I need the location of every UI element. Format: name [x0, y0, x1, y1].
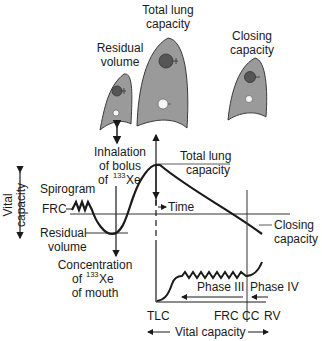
- svg-text:of: of: [98, 173, 109, 187]
- closing-capacity-label: Closing: [274, 218, 314, 232]
- svg-text:133: 133: [86, 270, 99, 279]
- bolus-label: Inhalation of bolus of 133 Xe: [94, 145, 146, 187]
- tick-frc: FRC: [214, 309, 239, 323]
- svg-text:of: of: [72, 272, 83, 286]
- lung-label-line2: volume: [101, 55, 140, 69]
- svg-text:133: 133: [113, 171, 126, 180]
- tlc-curve-label: Total lung: [180, 149, 231, 163]
- lung-closing-capacity: Closing capacity: [228, 29, 274, 120]
- tick-cc: CC: [242, 309, 260, 323]
- closing-volume-diagram: Residual volume Total lung capacity Clos…: [0, 0, 322, 341]
- svg-text:of mouth: of mouth: [72, 286, 119, 300]
- residual-volume-label: Residual: [40, 226, 87, 240]
- svg-text:Xe: Xe: [99, 272, 114, 286]
- lung-label-line2: capacity: [146, 17, 190, 31]
- svg-text:Vital: Vital: [1, 193, 15, 216]
- lung-label-line1: Total lung: [142, 3, 193, 17]
- lung-residual-volume: Residual volume: [97, 41, 144, 130]
- svg-text:capacity: capacity: [186, 163, 230, 177]
- vital-capacity-bottom-label: Vital capacity: [175, 325, 245, 339]
- concentration-label: Concentration of 133 Xe of mouth: [58, 258, 133, 300]
- phase-3-label: Phase III: [197, 280, 244, 294]
- tick-tlc: TLC: [147, 309, 170, 323]
- lung-label-line1: Residual: [97, 41, 144, 55]
- vital-capacity-vertical: Vital capacity: [1, 172, 28, 238]
- phase-4-label: Phase IV: [250, 280, 299, 294]
- lung-label-line2: capacity: [230, 43, 274, 57]
- svg-text:capacity: capacity: [274, 232, 318, 246]
- frc-label: FRC: [42, 202, 67, 216]
- tick-rv: RV: [264, 309, 280, 323]
- svg-text:volume: volume: [48, 240, 87, 254]
- lung-total-capacity: Total lung capacity: [137, 3, 194, 128]
- svg-text:Inhalation: Inhalation: [94, 145, 146, 159]
- spirogram-label: Spirogram: [40, 182, 95, 196]
- time-label: Time: [168, 200, 195, 214]
- lung-label-line1: Closing: [232, 29, 272, 43]
- svg-text:capacity: capacity: [14, 183, 28, 227]
